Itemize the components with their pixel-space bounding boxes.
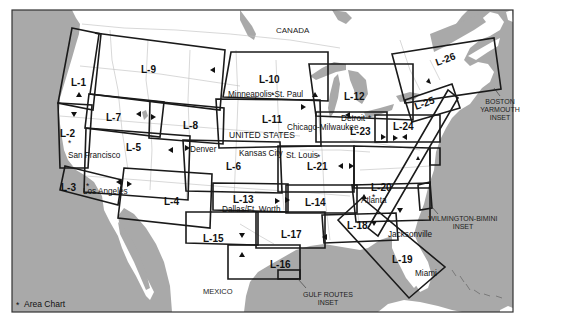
chart-label-l18: L-18: [347, 220, 368, 231]
inset-label-gulf-2: INSET: [318, 299, 339, 306]
inset-label-wilmington-1: WILMINGTON-BIMINI: [428, 215, 497, 222]
chart-label-l7: L-7: [106, 112, 121, 123]
legend: * Area Chart: [16, 299, 66, 310]
chart-label-l24: L-24: [393, 121, 414, 132]
chart-label-l12: L-12: [344, 91, 365, 102]
inset-label-boston-2: YARMOUTH: [480, 106, 520, 113]
country-label-mexico: MEXICO: [203, 287, 233, 296]
chart-label-l6: L-6: [226, 161, 241, 172]
chart-label-l8: L-8: [183, 120, 198, 131]
chart-label-l20: L-20: [371, 182, 392, 193]
chart-label-l9: L-9: [141, 64, 156, 75]
city-label-chicago: Chicago-Milwaukee: [287, 123, 359, 132]
chart-label-l5: L-5: [126, 142, 141, 153]
city-label-st-louis: St. Louis: [286, 151, 318, 160]
enroute-chart-index-map: * * * * * * L-1 L-2 L-3 L-4 L-5 L-6 L-7 …: [0, 0, 561, 328]
chart-label-l2: L-2: [60, 128, 75, 139]
city-label-atlanta: Atlanta: [361, 196, 387, 205]
city-label-denver: Denver: [190, 145, 217, 154]
chart-label-l14: L-14: [305, 197, 326, 208]
city-label-kansas-city: Kansas City: [239, 149, 284, 158]
chart-label-l21: L-21: [307, 161, 328, 172]
chart-label-l19: L-19: [392, 254, 413, 265]
chart-label-l4: L-4: [164, 196, 179, 207]
inset-label-gulf-1: GULF ROUTES: [303, 291, 353, 298]
country-label-us: UNITED STATES: [229, 130, 295, 140]
chart-label-l16: L-16: [270, 259, 291, 270]
city-label-jacksonville: Jacksonville: [388, 230, 433, 239]
chart-label-l3: L-3: [61, 182, 76, 193]
city-label-miami: Miami: [415, 269, 437, 278]
chart-label-l11: L-11: [262, 114, 282, 125]
city-label-detroit: Detroit: [341, 114, 366, 123]
chart-label-l15: L-15: [203, 233, 224, 244]
chart-label-l13: L-13: [233, 194, 254, 205]
chart-label-l1: L-1: [71, 77, 86, 88]
country-label-canada: CANADA: [276, 26, 310, 35]
city-label-minneapolis: Minneapolis-St. Paul: [228, 90, 303, 99]
city-label-dallas: Dallas/Ft. Worth: [222, 205, 281, 214]
inset-label-wilmington-2: INSET: [453, 223, 474, 230]
chart-label-l10: L-10: [259, 74, 280, 85]
city-label-san-francisco: San Francisco: [68, 151, 121, 160]
inset-label-boston-1: BOSTON: [485, 98, 514, 105]
inset-label-boston-3: INSET: [490, 114, 511, 121]
chart-label-l17: L-17: [281, 229, 302, 240]
legend-label: Area Chart: [24, 299, 66, 309]
city-label-los-angeles: Los Angeles: [83, 187, 128, 196]
